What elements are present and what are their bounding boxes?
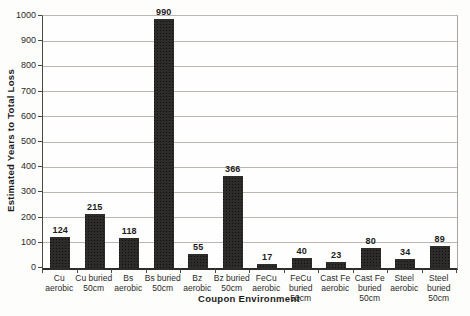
bar-value-label: 990: [142, 7, 186, 17]
y-tick-label: 900: [0, 35, 36, 45]
gridline: [43, 41, 457, 42]
gridline: [43, 192, 457, 193]
y-tick-label: 0: [0, 262, 36, 272]
gridline: [43, 66, 457, 67]
x-tick-label-line: Steel: [417, 273, 461, 283]
y-tick-label: 100: [0, 237, 36, 247]
y-tick-label: 300: [0, 186, 36, 196]
gridline: [43, 142, 457, 143]
gridline: [43, 91, 457, 92]
bar: [223, 176, 243, 268]
x-tick-label-line: buried: [417, 283, 461, 293]
bar-value-label: 89: [418, 234, 462, 244]
bar: [361, 248, 381, 268]
bar-value-label: 124: [38, 225, 82, 235]
bar: [188, 254, 208, 268]
bar: [50, 237, 70, 268]
bar: [119, 238, 139, 268]
bar-value-label: 80: [349, 236, 393, 246]
y-tick-label: 200: [0, 212, 36, 222]
gridline: [43, 116, 457, 117]
bar: [292, 258, 312, 268]
gridline: [43, 242, 457, 243]
plot-area: 12421511899055366174023803489: [42, 15, 458, 270]
y-tick-label: 500: [0, 136, 36, 146]
x-axis-title: Coupon Environment: [42, 293, 456, 304]
y-tick-label: 700: [0, 86, 36, 96]
bar-value-label: 23: [314, 250, 358, 260]
bar-chart: Estimated Years to Total Loss 0100200300…: [0, 0, 470, 316]
bar: [430, 246, 450, 268]
y-tick-label: 400: [0, 161, 36, 171]
gridline: [43, 217, 457, 218]
bar-value-label: 55: [176, 242, 220, 252]
bar: [395, 259, 415, 268]
bar-value-label: 118: [107, 226, 151, 236]
bar: [326, 262, 346, 268]
y-tick-label: 1000: [0, 10, 36, 20]
bar-value-label: 215: [73, 202, 117, 212]
bar-value-label: 34: [383, 247, 427, 257]
bar: [257, 264, 277, 268]
y-tick-label: 800: [0, 60, 36, 70]
bar-value-label: 366: [211, 164, 255, 174]
y-tick-label: 600: [0, 111, 36, 121]
bar: [85, 214, 105, 268]
bar: [154, 19, 174, 268]
